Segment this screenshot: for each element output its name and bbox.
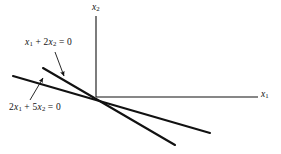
- equation-label-x1-plus-2x2: x1 + 2x2 = 0: [25, 37, 72, 47]
- line-x1-plus-2x2: [43, 68, 175, 145]
- y-axis-label: x2: [92, 2, 100, 12]
- eq1-rhs: 0: [67, 37, 72, 47]
- eq1-relation: =: [59, 37, 65, 47]
- eq1-sub1: 1: [29, 40, 32, 47]
- x-axis-label-sub: 1: [265, 92, 268, 99]
- eq2-sub1: 1: [18, 105, 21, 112]
- x-axis-label: x1: [261, 89, 269, 99]
- diagram-canvas: [0, 0, 281, 154]
- eq2-relation: =: [48, 102, 54, 112]
- pointer-to-line-x1-plus-2x2: [55, 52, 64, 76]
- eq2-sub2: 2: [42, 105, 45, 112]
- y-axis-label-sub: 2: [96, 5, 99, 12]
- eq1-sub2: 2: [53, 40, 56, 47]
- vector-diagram-figure: x1 + 2x2 = 0 2x1 + 5x2 = 0 x2 x1: [0, 0, 281, 154]
- eq2-operator: +: [24, 102, 30, 112]
- equation-label-2x1-plus-5x2: 2x1 + 5x2 = 0: [9, 102, 61, 112]
- eq1-operator: +: [35, 37, 41, 47]
- eq2-rhs: 0: [56, 102, 61, 112]
